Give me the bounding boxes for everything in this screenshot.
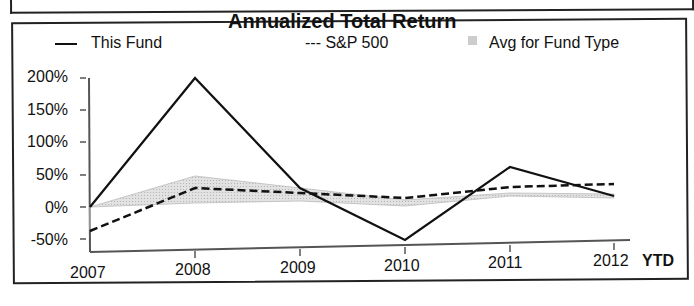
x-tick-label: 2011 bbox=[488, 254, 522, 272]
x-tick-label: 2007 bbox=[70, 264, 106, 282]
x-tick-label: 2012 bbox=[593, 252, 629, 270]
x-tick-label: 2009 bbox=[280, 259, 316, 277]
avg-fund-type-area bbox=[90, 176, 614, 230]
x-extra-label-ytd: YTD bbox=[642, 252, 674, 270]
this-fund-line bbox=[90, 78, 614, 240]
x-tick-label: 2008 bbox=[175, 261, 211, 279]
x-tick-label: 2010 bbox=[384, 257, 420, 275]
